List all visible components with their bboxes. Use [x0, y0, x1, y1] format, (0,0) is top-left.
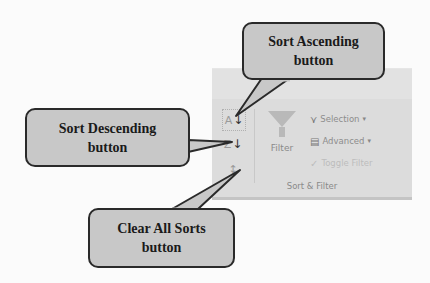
filter-button[interactable]: Filter — [260, 109, 304, 169]
sort-ascending-callout: Sort Ascending button — [242, 22, 385, 80]
advanced-button[interactable]: ▤ Advanced ▾ — [310, 133, 371, 149]
clear-all-sorts-callout: Clear All Sorts button — [88, 208, 235, 268]
callout-subtitle: button — [294, 51, 334, 70]
callout-subtitle: button — [88, 138, 128, 157]
group-label: Sort & Filter — [212, 181, 412, 191]
sort-descending-callout: Sort Descending button — [25, 108, 190, 167]
funnel-stem — [279, 127, 285, 137]
callout-title: Sort Ascending — [268, 32, 359, 51]
toggle-filter-icon: ✓ — [310, 158, 318, 169]
callout-subtitle: button — [142, 238, 182, 257]
group-separator — [254, 109, 255, 183]
sort-ascending-icon: A↓ — [225, 113, 244, 127]
sort-buttons-column: A↓ Z↓ ↕ — [222, 109, 252, 183]
chevron-down-icon: ▾ — [367, 137, 371, 145]
toggle-filter-label: Toggle Filter — [321, 158, 372, 168]
sort-filter-ribbon-group: A↓ Z↓ ↕ Filter ⋎ Selection ▾ ▤ Advanced … — [212, 68, 412, 200]
advanced-filter-icon: ▤ — [310, 136, 319, 147]
callout-title: Sort Descending — [59, 119, 157, 138]
sort-ascending-button[interactable]: A↓ — [222, 109, 246, 131]
filter-label: Filter — [271, 143, 293, 153]
chevron-down-icon: ▾ — [363, 115, 367, 123]
selection-button[interactable]: ⋎ Selection ▾ — [310, 111, 366, 127]
sort-descending-icon: Z↓ — [224, 137, 243, 151]
sort-descending-button[interactable]: Z↓ — [222, 134, 244, 154]
toggle-filter-button[interactable]: ✓ Toggle Filter — [310, 155, 372, 171]
selection-label: Selection — [320, 114, 359, 124]
callout-title: Clear All Sorts — [117, 219, 205, 238]
selection-filter-icon: ⋎ — [310, 114, 317, 125]
clear-sorts-icon: ↕ — [228, 163, 237, 176]
funnel-icon — [268, 111, 296, 127]
clear-all-sorts-button[interactable]: ↕ — [222, 159, 244, 179]
advanced-label: Advanced — [322, 136, 364, 146]
